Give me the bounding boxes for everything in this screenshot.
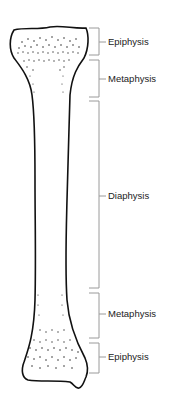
label-epiphysis-bottom: Epiphysis [108,352,149,362]
label-diaphysis: Diaphysis [108,191,149,201]
bracket-diaphysis [89,101,106,288]
bracket-metaphysis-top [89,60,106,97]
bone-diagram [0,0,187,394]
label-metaphysis-bottom: Metaphysis [108,309,156,319]
bracket-epiphysis-bottom [89,343,106,373]
label-metaphysis-top: Metaphysis [108,74,156,84]
region-brackets [89,28,106,373]
label-epiphysis-top: Epiphysis [108,37,149,47]
bone-outline [10,26,88,388]
bracket-epiphysis-top [89,28,106,55]
bracket-metaphysis-bottom [89,293,106,338]
